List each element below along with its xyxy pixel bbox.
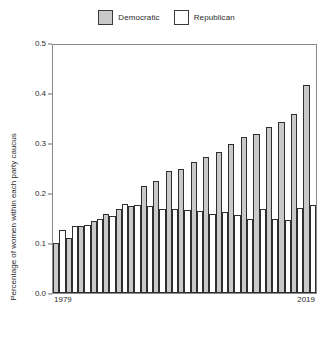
bar-group (128, 45, 141, 293)
y-axis-tick-label: 0.4 (35, 90, 46, 98)
bar-group (203, 45, 216, 293)
y-axis-tick-label: 0.5 (35, 40, 46, 48)
bar-republican-2019 (310, 205, 316, 293)
bar-group (91, 45, 104, 293)
legend-item-democratic: Democratic (98, 10, 159, 25)
bar-group (253, 45, 266, 293)
y-axis: Percentage of women within each party ca… (0, 44, 52, 294)
bar-group (191, 45, 204, 293)
legend-label-democratic: Democratic (118, 14, 159, 22)
plot-area (52, 44, 317, 294)
bar-series-group (53, 45, 316, 293)
bar-group (141, 45, 154, 293)
legend-swatch-democratic (98, 10, 113, 25)
bar-group (241, 45, 254, 293)
x-axis-label-last: 2019 (297, 296, 315, 304)
y-axis-tick-label: 0.2 (35, 190, 46, 198)
bar-group (53, 45, 66, 293)
bar-group (178, 45, 191, 293)
legend-label-republican: Republican (194, 14, 235, 22)
bar-group (303, 45, 316, 293)
legend-swatch-republican (174, 10, 189, 25)
bar-group (228, 45, 241, 293)
bar-group (216, 45, 229, 293)
bar-group (291, 45, 304, 293)
legend-item-republican: Republican (174, 10, 235, 25)
bar-group (166, 45, 179, 293)
bar-group (278, 45, 291, 293)
bar-group (116, 45, 129, 293)
chart-container: Democratic Republican Percentage of wome… (0, 0, 333, 347)
bar-group (153, 45, 166, 293)
bar-slot (310, 45, 316, 293)
chart-legend: Democratic Republican (0, 10, 333, 25)
bar-group (103, 45, 116, 293)
x-axis: 1979 2019 (52, 296, 317, 312)
bar-group (266, 45, 279, 293)
x-axis-label-first: 1979 (54, 296, 72, 304)
y-axis-tick-label: 0.0 (35, 290, 46, 298)
y-axis-title: Percentage of women within each party ca… (10, 117, 18, 317)
y-axis-tick-label: 0.3 (35, 140, 46, 148)
bar-group (66, 45, 79, 293)
bar-group (78, 45, 91, 293)
y-axis-tick-label: 0.1 (35, 240, 46, 248)
